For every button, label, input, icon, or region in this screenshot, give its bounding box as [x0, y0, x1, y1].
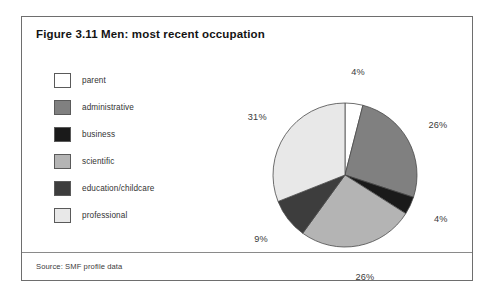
- legend-swatch-administrative: [54, 100, 71, 115]
- pie-label-administrative: 26%: [428, 120, 447, 130]
- legend-item-education-childcare: education/childcare: [54, 175, 214, 201]
- legend-label-administrative: administrative: [82, 103, 134, 112]
- pie-label-parent: 4%: [351, 67, 365, 77]
- legend-item-scientific: scientific: [54, 148, 214, 174]
- pie-label-scientific: 26%: [355, 272, 374, 282]
- pie-chart-svg: [218, 53, 470, 253]
- legend-swatch-professional: [54, 208, 71, 223]
- pie-chart: 4%26%4%26%9%31%: [218, 53, 470, 253]
- legend-item-professional: professional: [54, 202, 214, 228]
- legend-item-parent: parent: [54, 67, 214, 93]
- figure-frame: Figure 3.11 Men: most recent occupation …: [21, 16, 473, 281]
- legend-swatch-business: [54, 127, 71, 142]
- legend-item-business: business: [54, 121, 214, 147]
- pie-label-education-childcare: 9%: [254, 234, 268, 244]
- source-divider: [22, 252, 472, 253]
- figure-title: Figure 3.11 Men: most recent occupation: [36, 28, 265, 40]
- legend-label-scientific: scientific: [82, 157, 114, 166]
- pie-label-business: 4%: [434, 214, 448, 224]
- legend-swatch-parent: [54, 73, 71, 88]
- source-note: Source: SMF profile data: [36, 262, 122, 271]
- legend-swatch-education-childcare: [54, 181, 71, 196]
- pie-label-professional: 31%: [248, 112, 267, 122]
- legend-label-parent: parent: [82, 76, 106, 85]
- legend-item-administrative: administrative: [54, 94, 214, 120]
- legend-label-business: business: [82, 130, 115, 139]
- legend-swatch-scientific: [54, 154, 71, 169]
- chart-legend: parent administrative business scientifi…: [54, 67, 214, 229]
- legend-label-education-childcare: education/childcare: [82, 184, 154, 193]
- legend-label-professional: professional: [82, 211, 127, 220]
